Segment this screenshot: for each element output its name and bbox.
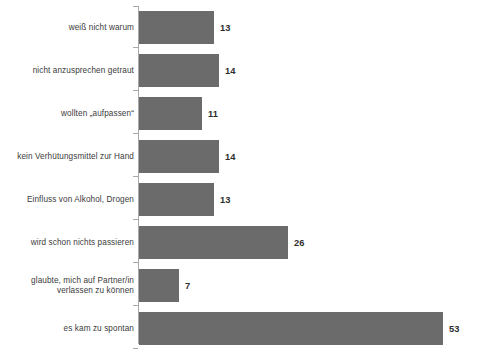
bar bbox=[139, 312, 443, 345]
category-label: Einfluss von Alkohol, Drogen bbox=[9, 194, 134, 205]
category-label: glaubte, mich auf Partner/in verlassen z… bbox=[9, 275, 134, 296]
bar-row: Einfluss von Alkohol, Drogen13 bbox=[0, 178, 494, 221]
bar bbox=[139, 226, 288, 259]
bar-value-label: 14 bbox=[225, 66, 235, 76]
bar bbox=[139, 183, 214, 216]
category-label: es kam zu spontan bbox=[9, 323, 134, 334]
bar-chart: weiß nicht warum13nicht anzusprechen get… bbox=[0, 0, 494, 352]
bar-row: es kam zu spontan53 bbox=[0, 307, 494, 350]
bar-row: glaubte, mich auf Partner/in verlassen z… bbox=[0, 264, 494, 307]
bar bbox=[139, 54, 219, 87]
axis-tick bbox=[133, 6, 138, 7]
axis-tick bbox=[133, 348, 138, 349]
bar bbox=[139, 269, 179, 302]
bar-row: wollten „aufpassen“11 bbox=[0, 92, 494, 135]
bar bbox=[139, 140, 219, 173]
axis-tick bbox=[133, 305, 138, 306]
bar-value-label: 7 bbox=[185, 281, 190, 291]
bar bbox=[139, 11, 214, 44]
axis-tick bbox=[133, 219, 138, 220]
category-label: wollten „aufpassen“ bbox=[9, 108, 134, 119]
bar-value-label: 26 bbox=[294, 238, 304, 248]
axis-tick bbox=[133, 262, 138, 263]
category-label: weiß nicht warum bbox=[9, 22, 134, 33]
category-label: wird schon nichts passieren bbox=[9, 237, 134, 248]
bar-row: kein Verhütungsmittel zur Hand14 bbox=[0, 135, 494, 178]
axis-tick bbox=[133, 47, 138, 48]
bar-row: nicht anzusprechen getraut14 bbox=[0, 49, 494, 92]
bar-value-label: 53 bbox=[449, 324, 459, 334]
category-label: nicht anzusprechen getraut bbox=[9, 65, 134, 76]
bar-value-label: 14 bbox=[225, 152, 235, 162]
axis-tick bbox=[133, 90, 138, 91]
bar-row: wird schon nichts passieren26 bbox=[0, 221, 494, 264]
bar-value-label: 11 bbox=[208, 109, 218, 119]
bar-row: weiß nicht warum13 bbox=[0, 6, 494, 49]
bar-value-label: 13 bbox=[220, 23, 230, 33]
bar bbox=[139, 97, 202, 130]
axis-tick bbox=[133, 176, 138, 177]
category-label: kein Verhütungsmittel zur Hand bbox=[9, 151, 134, 162]
axis-tick bbox=[133, 133, 138, 134]
bar-value-label: 13 bbox=[220, 195, 230, 205]
